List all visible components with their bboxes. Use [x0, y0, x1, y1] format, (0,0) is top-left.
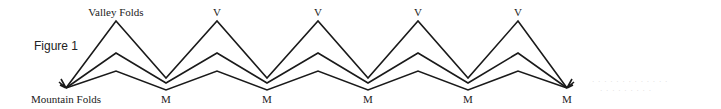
zigzag-fold-drawing: Valley Folds V V V V Figure 1 Mountain F…: [0, 0, 721, 109]
mountain-marker: M: [262, 93, 272, 105]
inner-fold-line: [66, 71, 567, 90]
faint-scan-text: · · · · · · · · ·: [600, 87, 652, 95]
valley-marker: V: [514, 6, 522, 18]
right-end-ticks: [567, 79, 574, 88]
valley-marker: V: [314, 6, 322, 18]
middle-fold-line: [66, 53, 567, 88]
mountain-folds-label: Mountain Folds: [31, 93, 101, 105]
left-end-ticks: [59, 79, 66, 88]
mountain-marker: M: [463, 93, 473, 105]
mountain-marker: M: [562, 93, 572, 105]
fold-diagram: Valley Folds V V V V Figure 1 Mountain F…: [0, 0, 721, 109]
faint-scan-text: · · · · · · · · · · · · ·: [592, 78, 668, 86]
valley-marker: V: [213, 6, 221, 18]
figure-label: Figure 1: [34, 39, 78, 53]
mountain-marker: M: [161, 93, 171, 105]
valley-marker: V: [414, 6, 422, 18]
mountain-marker: M: [363, 93, 373, 105]
valley-folds-label: Valley Folds: [88, 6, 143, 18]
